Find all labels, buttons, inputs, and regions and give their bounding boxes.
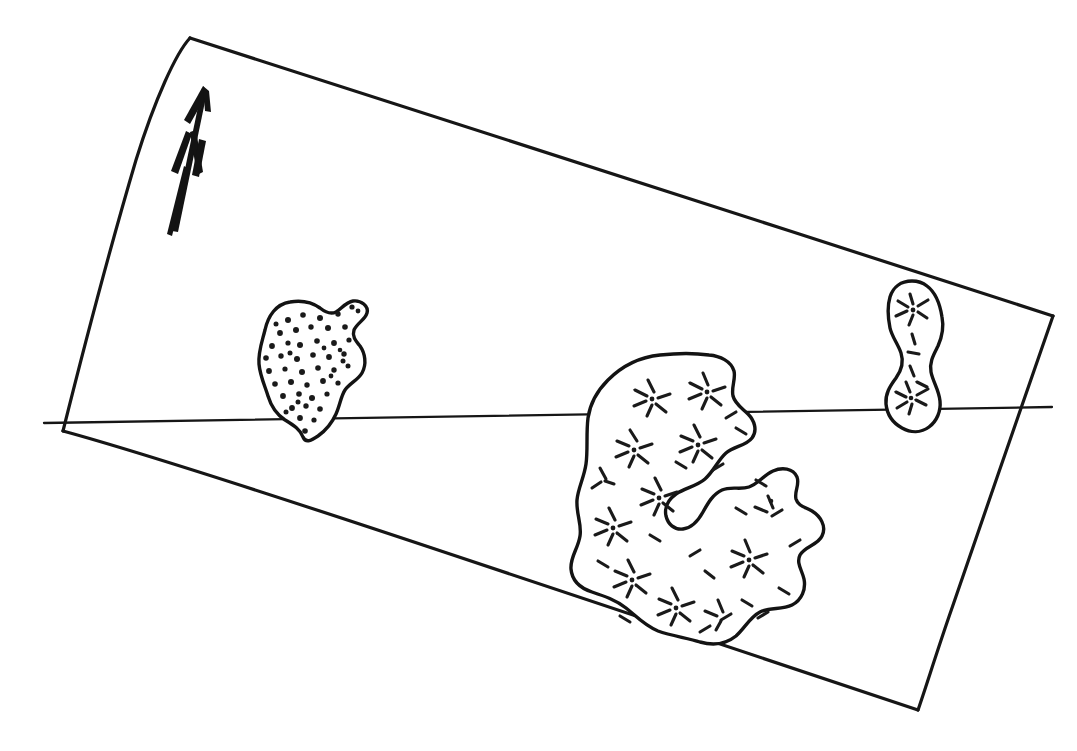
plot-edge-right xyxy=(918,316,1053,710)
north-arrow xyxy=(167,86,211,236)
vegetation-patch-right xyxy=(886,281,943,432)
sketch-map-canvas xyxy=(0,0,1077,751)
plot-edge-top xyxy=(190,38,1053,316)
dash-mark xyxy=(908,352,919,354)
map-drawing xyxy=(0,0,1077,751)
dash-mark xyxy=(620,616,630,622)
north-arrow-head-right xyxy=(203,86,211,112)
vegetation-patch-center xyxy=(571,354,824,645)
